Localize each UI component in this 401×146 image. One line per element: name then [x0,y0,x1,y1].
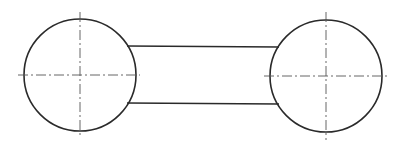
top-link-line [127,46,279,47]
link-diagram [0,0,401,146]
bottom-link-line [127,103,279,104]
